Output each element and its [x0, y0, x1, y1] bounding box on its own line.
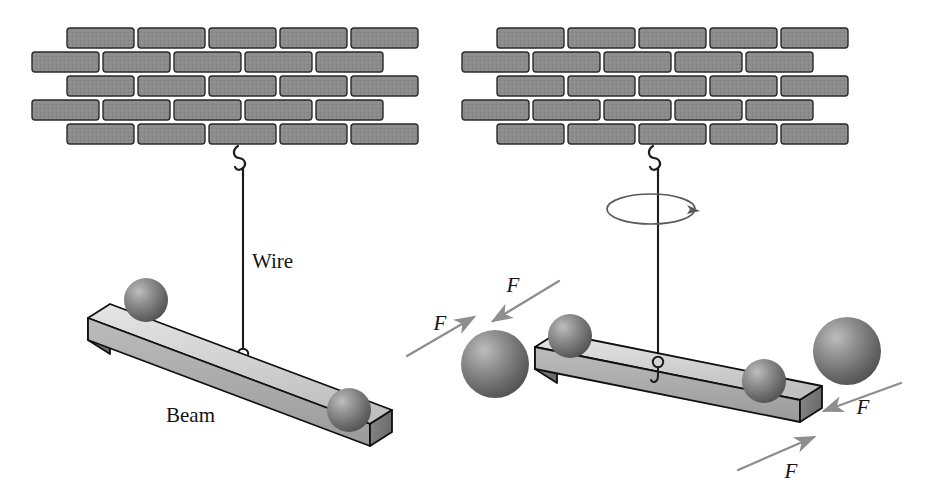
brick: [533, 52, 600, 72]
ceiling-hook-icon-left: [234, 146, 245, 176]
sphere-small: [548, 314, 592, 358]
brick: [781, 124, 848, 144]
brick: [351, 124, 418, 144]
brick: [316, 100, 383, 120]
brick: [67, 124, 134, 144]
brick: [568, 28, 635, 48]
brick: [781, 28, 848, 48]
brick: [138, 28, 205, 48]
brick: [533, 100, 600, 120]
brick: [138, 76, 205, 96]
brick: [103, 100, 170, 120]
brick: [280, 76, 347, 96]
brick: [746, 100, 813, 120]
brick: [710, 76, 777, 96]
ceiling-hook-icon-right: [649, 146, 660, 176]
brick: [710, 28, 777, 48]
brick: [280, 124, 347, 144]
brick: [174, 100, 241, 120]
brick: [174, 52, 241, 72]
brick: [351, 76, 418, 96]
wire-label: Wire: [252, 249, 293, 273]
brick: [245, 100, 312, 120]
force-label: F: [433, 311, 447, 335]
brick: [497, 28, 564, 48]
brick: [32, 100, 99, 120]
brick: [138, 124, 205, 144]
brick: [710, 124, 777, 144]
brick: [497, 76, 564, 96]
brick-wall-left: [32, 28, 418, 144]
left-panel: Wire Beam: [32, 28, 418, 446]
physics-figure: Wire Beam: [0, 0, 929, 500]
force-arrow-down-left-top: [493, 281, 559, 321]
rotation-ellipse: [607, 194, 700, 224]
brick: [32, 52, 99, 72]
force-label: F: [784, 459, 798, 483]
sphere-large: [813, 317, 881, 385]
force-arrow-up-right-bottom: [738, 437, 814, 470]
sphere-small: [742, 359, 786, 403]
force-label: F: [856, 395, 870, 419]
brick: [675, 52, 742, 72]
brick: [675, 100, 742, 120]
sphere-small: [124, 278, 168, 322]
brick: [103, 52, 170, 72]
brick: [746, 52, 813, 72]
brick: [351, 28, 418, 48]
brick-wall-right: [462, 28, 848, 144]
force-label: F: [506, 273, 520, 297]
brick: [316, 52, 383, 72]
figure-canvas: Wire Beam: [0, 0, 929, 500]
sphere-small: [327, 388, 371, 432]
brick: [497, 124, 564, 144]
brick: [604, 52, 671, 72]
sphere-large: [461, 330, 529, 398]
brick: [209, 124, 276, 144]
right-panel: F F F F: [407, 28, 901, 483]
brick: [639, 76, 706, 96]
brick: [209, 28, 276, 48]
brick: [639, 28, 706, 48]
beam-label: Beam: [166, 403, 215, 427]
brick: [209, 76, 276, 96]
brick: [568, 124, 635, 144]
brick: [280, 28, 347, 48]
brick: [245, 52, 312, 72]
brick: [462, 52, 529, 72]
brick: [67, 28, 134, 48]
brick: [604, 100, 671, 120]
brick: [639, 124, 706, 144]
brick: [568, 76, 635, 96]
brick: [462, 100, 529, 120]
brick: [67, 76, 134, 96]
brick: [781, 76, 848, 96]
